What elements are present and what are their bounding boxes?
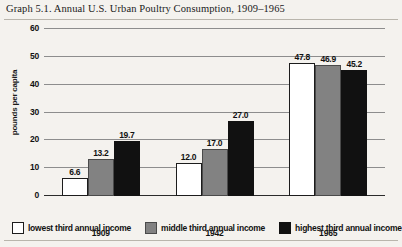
legend-swatch-icon	[279, 222, 291, 234]
bar: 46.9	[315, 65, 341, 196]
bar-value-label: 13.2	[93, 148, 108, 158]
chart-legend: lowest third annual incomemiddle third a…	[12, 222, 396, 234]
bar-value-label: 17.0	[207, 138, 222, 148]
legend-label: middle third annual income	[161, 223, 265, 233]
plot-area: 01020304050606.613.219.7190912.017.027.0…	[44, 29, 385, 196]
bar-value-label: 19.7	[119, 130, 134, 140]
bar: 19.7	[114, 141, 140, 196]
bar-value-label: 47.8	[294, 52, 309, 62]
y-tick-label: 10	[30, 162, 39, 172]
legend-swatch-icon	[12, 222, 24, 234]
y-axis-title: pounds per capita	[10, 53, 19, 153]
y-tick-label: 60	[30, 23, 39, 33]
legend-label: lowest third annual income	[28, 223, 131, 233]
y-tick-label: 50	[30, 51, 39, 61]
gridline: 60	[44, 28, 385, 29]
bar: 47.8	[289, 63, 315, 196]
bar-value-label: 12.0	[181, 152, 196, 162]
bar: 13.2	[88, 159, 114, 196]
legend-swatch-icon	[145, 222, 157, 234]
legend-item: highest third annual income	[279, 222, 402, 234]
legend-item: lowest third annual income	[12, 222, 131, 234]
bar: 45.2	[341, 70, 367, 196]
chart-figure: Graph 5.1. Annual U.S. Urban Poultry Con…	[0, 0, 402, 247]
y-tick-label: 40	[30, 79, 39, 89]
bar: 27.0	[228, 121, 254, 196]
legend-label: highest third annual income	[295, 223, 402, 233]
bar-value-label: 45.2	[346, 59, 361, 69]
bar-value-label: 6.6	[69, 167, 80, 177]
y-tick-label: 0	[34, 190, 39, 200]
bar: 12.0	[176, 163, 202, 196]
legend-divider	[4, 240, 398, 241]
bar: 6.6	[62, 178, 88, 196]
bar-value-label: 46.9	[320, 54, 335, 64]
bar: 17.0	[202, 149, 228, 196]
bar-value-label: 27.0	[233, 110, 248, 120]
page-title: Graph 5.1. Annual U.S. Urban Poultry Con…	[6, 3, 285, 14]
y-tick-label: 20	[30, 134, 39, 144]
title-divider	[4, 19, 398, 20]
y-tick-label: 30	[30, 107, 39, 117]
legend-item: middle third annual income	[145, 222, 265, 234]
